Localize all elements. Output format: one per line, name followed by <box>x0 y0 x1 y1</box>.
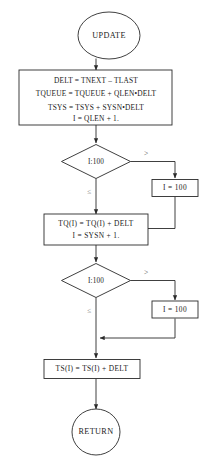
flowchart-svg: UPDATE DELT = TNEXT – TLAST TQUEUE = TQU… <box>0 0 210 466</box>
decision-1-greater-label: > <box>144 149 148 158</box>
process-1-line-1: DELT = TNEXT – TLAST <box>54 76 138 85</box>
decision-2-greater-label: > <box>144 268 148 277</box>
process-1-line-2: TQUEUE = TQUEUE + QLEN•DELT <box>36 89 157 98</box>
edge-decision1-greater-to-clamp1 <box>131 162 176 179</box>
process-1-line-3: TSYS = TSYS + SYSN•DELT <box>48 103 144 112</box>
terminal-start-label: UPDATE <box>92 31 126 40</box>
decision-2-label: I:100 <box>88 277 104 285</box>
flowchart-canvas: UPDATE DELT = TNEXT – TLAST TQUEUE = TQU… <box>0 0 210 466</box>
decision-1-label: I:100 <box>88 158 104 166</box>
edge-clamp2-merge <box>100 319 175 339</box>
process-2-line-1: TQ(I) = TQ(I) + DELT <box>58 219 133 228</box>
process-3-label: TS(I) = TS(I) + DELT <box>56 364 129 373</box>
clamp-2-label: I = 100 <box>163 305 187 314</box>
process-2-line-2: I = SYSN + 1. <box>72 231 119 240</box>
decision-1-lessequal-label: ≤ <box>87 187 91 196</box>
edge-decision2-greater-to-clamp2 <box>131 281 176 301</box>
clamp-1-label: I = 100 <box>163 183 187 192</box>
terminal-end-label: RETURN <box>79 427 114 436</box>
decision-2-lessequal-label: ≤ <box>87 306 91 315</box>
process-1-line-4: I = QLEN + 1. <box>73 114 119 123</box>
